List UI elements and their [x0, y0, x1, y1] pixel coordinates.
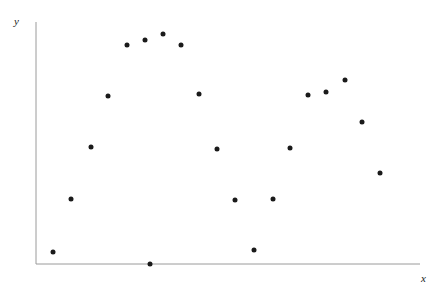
data-point — [197, 92, 202, 97]
data-point — [148, 262, 153, 267]
data-point — [69, 197, 74, 202]
data-point — [360, 120, 365, 125]
data-point — [161, 32, 166, 37]
scatter-plot-figure: y x — [0, 0, 448, 290]
y-axis-label: y — [14, 16, 19, 27]
data-point — [143, 38, 148, 43]
data-point — [215, 147, 220, 152]
data-point — [288, 146, 293, 151]
axes-group — [36, 22, 420, 264]
data-point — [306, 93, 311, 98]
scatter-plot-canvas — [0, 0, 448, 290]
data-point — [233, 198, 238, 203]
data-point — [89, 145, 94, 150]
data-point — [271, 197, 276, 202]
data-points-group — [51, 32, 383, 267]
data-point — [51, 250, 56, 255]
data-point — [343, 78, 348, 83]
data-point — [125, 43, 130, 48]
data-point — [252, 248, 257, 253]
data-point — [378, 171, 383, 176]
data-point — [179, 43, 184, 48]
x-axis-label: x — [421, 273, 426, 284]
data-point — [106, 94, 111, 99]
data-point — [324, 90, 329, 95]
